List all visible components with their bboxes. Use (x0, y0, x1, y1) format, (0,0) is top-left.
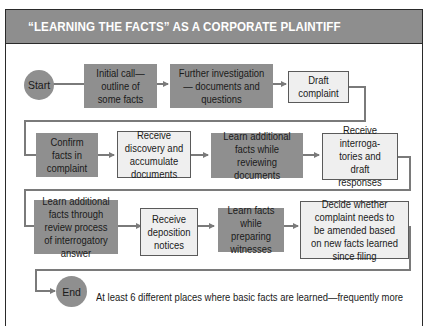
start-node: Start (24, 70, 54, 100)
start-label: Start (28, 79, 50, 91)
step-decide-amend-complaint: Decide whether complaint needs to be ame… (300, 201, 409, 259)
step-draft-complaint: Draft complaint (288, 71, 349, 103)
step-receive-discovery: Receive discovery and accumulate documen… (117, 131, 191, 178)
end-node: End (56, 276, 87, 307)
footnote: At least 6 different places where basic … (96, 291, 403, 303)
step-confirm-facts: Confirm facts in complaint (36, 133, 98, 177)
end-label: End (62, 286, 81, 298)
step-initial-call: Initial call— outline of some facts (84, 64, 157, 108)
step-learn-reviewing-documents: Learn additional facts while reviewing d… (211, 133, 303, 178)
step-receive-interrogatories: Receive interroga-tories and draft respo… (322, 133, 398, 180)
step-learn-preparing-witnesses: Learn facts while preparing witnesses (218, 208, 284, 252)
step-learn-interrogatory-review: Learn additional facts through review pr… (34, 200, 118, 254)
step-further-investigation: Further investigation— documents and que… (170, 64, 273, 108)
step-receive-deposition-notices: Receive deposition notices (140, 208, 198, 256)
